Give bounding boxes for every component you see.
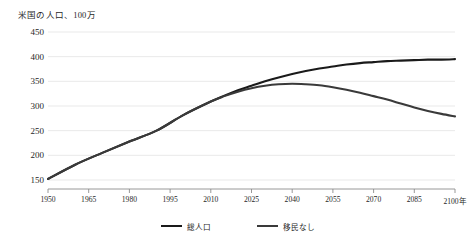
y-axis-tick-label: 300	[18, 101, 44, 111]
legend-item-2[interactable]: 移民なし	[257, 221, 315, 232]
x-axis-tick-label: 2040	[285, 195, 300, 204]
x-axis-tick-label: 1965	[81, 195, 96, 204]
chart-legend: 総人口移民なし	[0, 218, 476, 234]
x-axis-tick-label: 2025	[244, 195, 259, 204]
legend-swatch-icon	[257, 225, 278, 228]
x-axis-tick-label: 1995	[163, 195, 178, 204]
legend-label: 総人口	[187, 221, 211, 232]
y-axis-tick-label: 400	[18, 52, 44, 62]
x-axis-tick-label: 2055	[325, 195, 340, 204]
x-axis-tick-label: 2100年	[443, 195, 466, 206]
y-axis-tick-label: 250	[18, 126, 44, 136]
series-line-2	[48, 84, 455, 179]
y-axis-tick-label: 450	[18, 27, 44, 37]
x-axis-tick-labels: 1950196519801995201020252040205520702085…	[0, 195, 476, 209]
x-axis-tick-label: 2085	[407, 195, 422, 204]
legend-swatch-icon	[161, 225, 182, 228]
y-axis-tick-label: 350	[18, 76, 44, 86]
x-axis-tick-label: 1980	[122, 195, 137, 204]
y-axis-tick-label: 200	[18, 150, 44, 160]
y-axis-tick-label: 150	[18, 175, 44, 185]
legend-item-1[interactable]: 総人口	[161, 221, 211, 232]
x-axis-tick-label: 1950	[40, 195, 55, 204]
population-line-chart: 米国の人口、100万 150200250300350400450 1950196…	[0, 0, 476, 245]
x-axis-tick-label: 2070	[366, 195, 381, 204]
legend-label: 移民なし	[283, 221, 315, 232]
series-line-1	[48, 59, 455, 179]
x-axis-tick-label: 2010	[203, 195, 218, 204]
